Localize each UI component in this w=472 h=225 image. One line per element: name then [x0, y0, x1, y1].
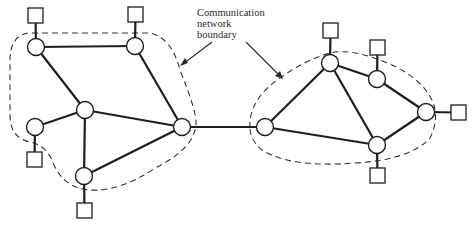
arrow-right	[246, 42, 280, 76]
arrow-left	[183, 42, 212, 64]
switch-node-R4	[418, 104, 435, 121]
host-square-icon	[77, 203, 92, 218]
link-L3-L5	[85, 110, 182, 127]
label-line-1: Communication	[197, 7, 265, 18]
host-square-icon	[451, 105, 466, 120]
link-L1-L2	[36, 46, 135, 47]
switch-node-R3	[369, 71, 386, 88]
link-L1-L3	[36, 47, 85, 110]
switch-node-R5	[369, 137, 386, 154]
switch-node-L4	[27, 119, 44, 136]
switch-node-L5	[174, 119, 191, 136]
host-square-icon	[370, 168, 385, 183]
switch-node-L2	[127, 38, 144, 55]
switch-node-R2	[322, 55, 339, 72]
label-arrows	[180, 42, 283, 79]
link-R1-R2	[265, 63, 330, 127]
label-line-2: network	[197, 18, 232, 29]
link-R1-R5	[265, 127, 377, 145]
switch-node-L1	[28, 39, 45, 56]
link-L3-L6	[84, 110, 85, 176]
host-square-icon	[370, 40, 385, 55]
boundary-label: Communication network boundary	[197, 7, 265, 40]
link-L2-L5	[135, 46, 182, 127]
host-square-icon	[128, 7, 143, 22]
arrowhead-left-icon	[180, 58, 188, 66]
host-square-icon	[323, 23, 338, 38]
nodes-layer	[27, 38, 435, 185]
switch-node-L6	[76, 168, 93, 185]
switch-node-R1	[257, 119, 274, 136]
link-L6-L5	[84, 127, 182, 176]
right-network-boundary	[250, 52, 436, 164]
host-square-icon	[27, 152, 42, 167]
network-diagram: Communication network boundary	[0, 0, 472, 225]
host-square-icon	[28, 8, 43, 23]
label-line-3: boundary	[197, 29, 237, 40]
switch-node-L3	[77, 102, 94, 119]
